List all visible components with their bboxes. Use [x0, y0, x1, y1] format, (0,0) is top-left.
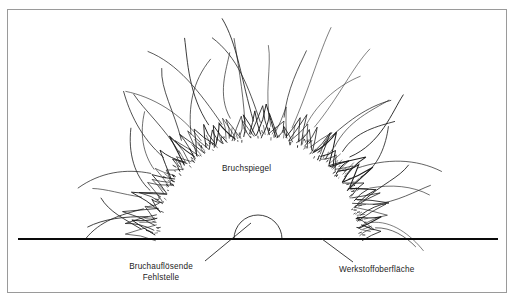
label-flaw-line1: Bruchauflösende	[129, 262, 193, 271]
label-werkstoffoberflaeche: Werkstoffoberfläche	[339, 264, 414, 275]
label-bruchaufloesende-fehlstelle: Bruchauflösende Fehlstelle	[113, 261, 209, 283]
label-bruchspiegel: Bruchspiegel	[222, 163, 271, 174]
flaw-semicircle	[234, 215, 282, 239]
flaw-leader-line	[205, 223, 251, 261]
fracture-diagram-figure: Bruchspiegel Bruchauflösende Fehlstelle …	[0, 0, 514, 302]
fracture-drawing	[0, 0, 514, 302]
radial-crack-lines	[78, 19, 441, 251]
surface-leader-line	[322, 239, 353, 262]
label-flaw-line2: Fehlstelle	[143, 273, 180, 282]
